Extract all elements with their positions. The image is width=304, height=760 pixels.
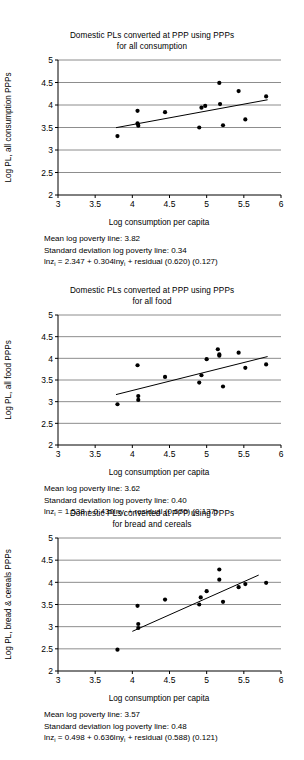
data-point bbox=[135, 109, 139, 113]
y-axis-label: Log PL, all food PPPs bbox=[4, 340, 13, 420]
y-tick-label: 4 bbox=[48, 578, 53, 588]
y-tick-label: 4 bbox=[48, 100, 53, 110]
y-tick-label: 2 bbox=[48, 440, 53, 450]
eq-mid: = 0.498 + 0.636lny bbox=[56, 733, 125, 742]
y-tick-label: 5 bbox=[48, 55, 53, 65]
data-point bbox=[216, 347, 220, 351]
data-point bbox=[197, 125, 201, 129]
data-point bbox=[115, 134, 119, 138]
data-point bbox=[135, 363, 139, 367]
data-point bbox=[205, 357, 209, 361]
x-tick-label: 4.5 bbox=[164, 449, 176, 459]
x-tick-label: 3 bbox=[56, 449, 61, 459]
y-tick-label: 3.5 bbox=[41, 375, 53, 385]
data-point bbox=[136, 622, 140, 626]
x-tick-label: 6 bbox=[279, 675, 284, 685]
data-point bbox=[243, 366, 247, 370]
data-point bbox=[163, 598, 167, 602]
data-point bbox=[237, 351, 241, 355]
y-tick-label: 3 bbox=[48, 622, 53, 632]
y-tick-label: 4 bbox=[48, 354, 53, 364]
x-tick-label: 5 bbox=[204, 199, 209, 209]
figure-bread-and-cereals: Domestic PLs converted at PPP using PPPs… bbox=[0, 508, 304, 758]
y-tick-label: 5 bbox=[48, 533, 53, 543]
y-axis-label: Log PL, all consumption PPPs bbox=[4, 72, 13, 182]
caption-mean-line: Mean log poverty line: 3.82 bbox=[44, 233, 304, 245]
x-tick-label: 5.5 bbox=[238, 675, 250, 685]
scatter-plot-svg: 22.533.544.5533.544.555.56Log PL, all fo… bbox=[0, 307, 304, 467]
data-point bbox=[203, 104, 207, 108]
data-point bbox=[264, 94, 268, 98]
y-axis-label: Log PL, bread & cereals PPPs bbox=[4, 549, 13, 660]
eq-mid: = 2.347 + 0.304lny bbox=[56, 257, 125, 266]
data-point bbox=[136, 626, 140, 630]
data-point bbox=[199, 373, 203, 377]
y-tick-label: 2 bbox=[48, 666, 53, 676]
eq-prefix: lnz bbox=[44, 733, 54, 742]
y-tick-label: 3.5 bbox=[41, 600, 53, 610]
figure-page: Domestic PLs converted at PPP using PPPs… bbox=[0, 0, 304, 760]
caption-equation: lnzi = 0.498 + 0.636lnyi + residual (0.5… bbox=[44, 732, 304, 745]
y-tick-label: 5 bbox=[48, 310, 53, 320]
data-point bbox=[205, 589, 209, 593]
scatter-plot-svg: 22.533.544.5533.544.555.56Log PL, all co… bbox=[0, 52, 304, 217]
y-tick-label: 2 bbox=[48, 190, 53, 200]
eq-suffix: + residual (0.620) (0.127) bbox=[125, 257, 217, 266]
caption-sd-line: Standard deviation log poverty line: 0.4… bbox=[44, 495, 304, 507]
data-point bbox=[163, 375, 167, 379]
data-point bbox=[264, 581, 268, 585]
x-tick-label: 4 bbox=[130, 199, 135, 209]
x-axis-label: Log consumption per capita bbox=[0, 468, 304, 477]
chart-title: Domestic PLs converted at PPP using PPPs… bbox=[0, 285, 304, 307]
regression-fit-line bbox=[116, 357, 268, 395]
y-tick-label: 3.5 bbox=[41, 123, 53, 133]
y-tick-label: 4.5 bbox=[41, 555, 53, 565]
data-point bbox=[237, 89, 241, 93]
x-tick-label: 5 bbox=[204, 675, 209, 685]
y-tick-label: 2.5 bbox=[41, 644, 53, 654]
caption-sd-line: Standard deviation log poverty line: 0.4… bbox=[44, 721, 304, 733]
data-point bbox=[218, 102, 222, 106]
data-point bbox=[221, 600, 225, 604]
data-point bbox=[115, 648, 119, 652]
x-tick-label: 3.5 bbox=[89, 199, 101, 209]
plot-area: 22.533.544.5533.544.555.56Log PL, all fo… bbox=[0, 307, 304, 467]
data-point bbox=[163, 110, 167, 114]
x-tick-label: 6 bbox=[279, 199, 284, 209]
scatter-plot-svg: 22.533.544.5533.544.555.56Log PL, bread … bbox=[0, 530, 304, 693]
x-tick-label: 3.5 bbox=[89, 449, 101, 459]
chart-title: Domestic PLs converted at PPP using PPPs… bbox=[0, 508, 304, 530]
y-tick-label: 2.5 bbox=[41, 419, 53, 429]
x-tick-label: 4 bbox=[130, 675, 135, 685]
caption-mean-line: Mean log poverty line: 3.57 bbox=[44, 709, 304, 721]
x-tick-label: 5.5 bbox=[238, 449, 250, 459]
data-point bbox=[221, 123, 225, 127]
plot-area: 22.533.544.5533.544.555.56Log PL, bread … bbox=[0, 530, 304, 693]
data-point bbox=[217, 567, 221, 571]
data-point bbox=[217, 354, 221, 358]
figure-all-food: Domestic PLs converted at PPP using PPPs… bbox=[0, 285, 304, 530]
plot-area: 22.533.544.5533.544.555.56Log PL, all co… bbox=[0, 52, 304, 217]
y-tick-label: 2.5 bbox=[41, 168, 53, 178]
x-tick-label: 4 bbox=[130, 449, 135, 459]
eq-sub-1: i bbox=[54, 261, 55, 267]
caption-sd-line: Standard deviation log poverty line: 0.3… bbox=[44, 245, 304, 257]
data-point bbox=[115, 402, 119, 406]
y-tick-label: 3 bbox=[48, 145, 53, 155]
data-point bbox=[199, 106, 203, 110]
figure-all-consumption: Domestic PLs converted at PPP using PPPs… bbox=[0, 30, 304, 280]
data-point bbox=[264, 362, 268, 366]
data-point bbox=[217, 81, 221, 85]
data-point bbox=[135, 604, 139, 608]
y-tick-label: 4.5 bbox=[41, 78, 53, 88]
figure-caption: Mean log poverty line: 3.57 Standard dev… bbox=[0, 709, 304, 745]
figure-caption: Mean log poverty line: 3.82 Standard dev… bbox=[0, 233, 304, 269]
data-point bbox=[136, 394, 140, 398]
eq-sub-1: i bbox=[54, 737, 55, 743]
data-point bbox=[199, 595, 203, 599]
caption-equation: lnzi = 2.347 + 0.304lnyi + residual (0.6… bbox=[44, 256, 304, 269]
x-tick-label: 5.5 bbox=[238, 199, 250, 209]
data-point bbox=[197, 602, 201, 606]
x-tick-label: 3 bbox=[56, 675, 61, 685]
eq-suffix: + residual (0.588) (0.121) bbox=[125, 733, 217, 742]
